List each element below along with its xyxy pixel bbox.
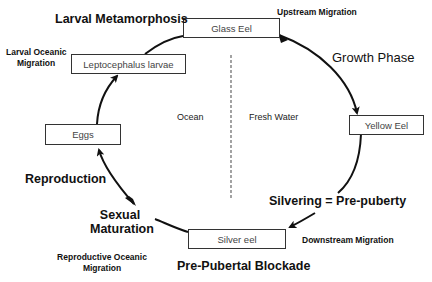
migration-reproductive-oceanic: Reproductive Oceanic Migration xyxy=(55,252,149,273)
phase-silvering: Silvering = Pre-puberty xyxy=(269,194,406,208)
stage-glass-eel-label: Glass Eel xyxy=(211,23,252,34)
eel-life-cycle-diagram: Glass Eel Leptocephalus larvae Eggs Yell… xyxy=(0,0,432,282)
migration-downstream: Downstream Migration xyxy=(302,235,394,246)
stage-silver-eel: Silver eel xyxy=(188,229,286,249)
migration-larval-oceanic: Larval Oceanic Migration xyxy=(6,47,66,68)
stage-glass-eel: Glass Eel xyxy=(183,18,280,38)
arrow-eggs-to-leptocephalus xyxy=(97,76,117,124)
region-fresh-water: Fresh Water xyxy=(249,112,298,122)
phase-sexual-maturation-line1: Sexual xyxy=(90,208,150,222)
migration-reproductive-oceanic-line2: Migration xyxy=(55,263,149,274)
migration-larval-oceanic-line1: Larval Oceanic xyxy=(6,47,66,58)
stage-eggs: Eggs xyxy=(45,124,121,145)
arrow-yellow-eel-to-silvering xyxy=(338,134,361,193)
phase-pre-pubertal-blockade: Pre-Pubertal Blockade xyxy=(177,259,310,273)
phase-reproduction: Reproduction xyxy=(25,172,106,186)
phase-growth: Growth Phase xyxy=(332,50,414,65)
phase-larval-metamorphosis: Larval Metamorphosis xyxy=(55,12,188,26)
region-ocean: Ocean xyxy=(177,112,204,122)
stage-yellow-eel: Yellow Eel xyxy=(349,115,424,135)
stage-leptocephalus-label: Leptocephalus larvae xyxy=(83,59,173,70)
phase-sexual-maturation-line2: Maturation xyxy=(90,222,150,236)
arrow-glass-eel-to-yellow-eel xyxy=(279,35,357,113)
arrow-leptocephalus-to-glass-eel xyxy=(145,36,183,54)
stage-eggs-label: Eggs xyxy=(72,129,94,140)
migration-larval-oceanic-line2: Migration xyxy=(6,58,66,69)
phase-sexual-maturation: Sexual Maturation xyxy=(90,208,150,237)
arrow-silver-eel-to-maturation xyxy=(155,219,188,232)
stage-silver-eel-label: Silver eel xyxy=(217,234,256,245)
stage-yellow-eel-label: Yellow Eel xyxy=(365,120,408,131)
stage-leptocephalus: Leptocephalus larvae xyxy=(71,54,186,74)
migration-upstream: Upstream Migration xyxy=(277,7,357,18)
arrowhead-maturation xyxy=(125,196,136,206)
migration-reproductive-oceanic-line1: Reproductive Oceanic xyxy=(55,252,149,263)
arrow-silvering-to-silver-eel xyxy=(290,213,315,227)
